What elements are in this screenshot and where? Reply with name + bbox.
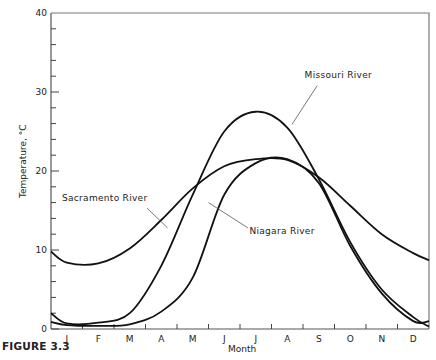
x-tick-label: S <box>316 334 322 344</box>
x-tick-label: J <box>253 334 257 344</box>
x-axis-ticks: JFMAMJJASOND <box>64 324 416 344</box>
y-tick-label: 10 <box>36 245 48 255</box>
niagara-river-line <box>51 157 429 326</box>
x-tick-label: O <box>347 334 354 344</box>
niagara-river-label: Niagara River <box>249 226 314 236</box>
x-tick-label: J <box>222 334 226 344</box>
temperature-chart: 010203040 JFMAMJJASOND Missouri RiverSac… <box>0 0 436 360</box>
x-tick-label: N <box>378 334 385 344</box>
x-tick-label: F <box>96 334 101 344</box>
x-tick-label: D <box>410 334 417 344</box>
series-curves <box>51 112 429 327</box>
x-tick-label: M <box>189 334 197 344</box>
x-tick-label: A <box>284 334 291 344</box>
figure-label: FIGURE 3.3 <box>2 340 70 352</box>
y-axis-label: Temperature, °C <box>18 124 28 199</box>
y-tick-label: 20 <box>36 166 48 176</box>
y-axis-ticks: 010203040 <box>36 8 59 334</box>
y-tick-label: 30 <box>36 87 48 97</box>
x-axis-label: Month <box>228 344 256 354</box>
x-tick-label: A <box>158 334 165 344</box>
missouri-river-line <box>51 112 429 327</box>
y-tick-label: 0 <box>41 324 47 334</box>
missouri-river-label: Missouri River <box>305 70 372 80</box>
y-tick-label: 40 <box>36 8 48 18</box>
sacramento-river-label: Sacramento River <box>62 193 147 203</box>
x-tick-label: M <box>126 334 134 344</box>
